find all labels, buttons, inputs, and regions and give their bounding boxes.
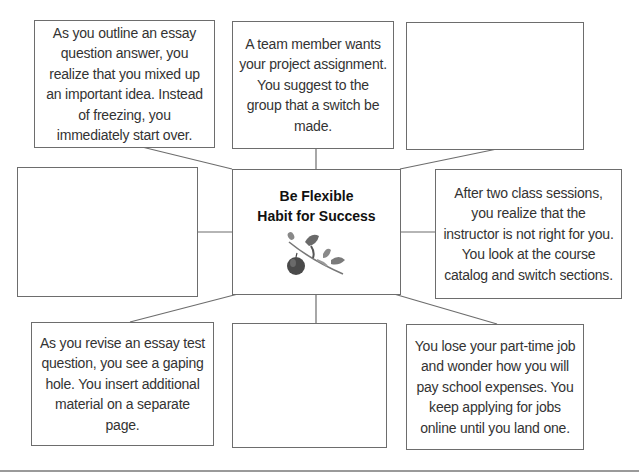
box-top-right (406, 22, 584, 150)
box-top-center: A team member wants your project assignm… (232, 21, 394, 149)
box-top-center-text: A team member wants your project assignm… (239, 34, 387, 137)
apple-branch-icon (281, 232, 353, 280)
bottom-divider (0, 470, 639, 472)
connector-top-right (400, 149, 497, 169)
box-bottom-left-text: As you revise an essay test question, yo… (38, 333, 207, 436)
connector-bottom-left (130, 294, 238, 322)
box-middle-left (17, 167, 198, 297)
center-box: Be Flexible Habit for Success (232, 169, 401, 295)
box-top-left-text: As you outline an essay question answer,… (41, 23, 208, 146)
center-title-line2: Habit for Success (257, 206, 375, 226)
box-bottom-center (232, 323, 387, 448)
box-middle-right: After two class sessions, you realize th… (435, 169, 622, 299)
box-bottom-right-text: You lose your part-time job and wonder h… (413, 336, 577, 439)
connector-top-left (142, 147, 232, 169)
box-bottom-left: As you revise an essay test question, yo… (31, 322, 214, 446)
center-title-line1: Be Flexible (280, 186, 354, 206)
box-bottom-right: You lose your part-time job and wonder h… (406, 324, 584, 450)
box-middle-right-text: After two class sessions, you realize th… (442, 183, 615, 286)
box-top-left: As you outline an essay question answer,… (34, 20, 215, 148)
